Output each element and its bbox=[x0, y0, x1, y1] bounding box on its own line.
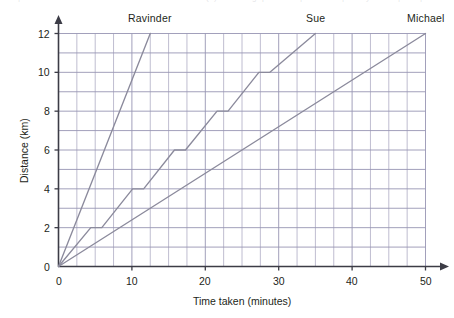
y-tick-label: 12 bbox=[38, 28, 50, 40]
x-tick-label: 40 bbox=[346, 275, 358, 287]
series-label-michael: Michael bbox=[407, 12, 445, 24]
y-tick-label: 10 bbox=[38, 66, 50, 78]
distance-time-graph bbox=[0, 0, 454, 318]
y-tick-label: 0 bbox=[44, 261, 50, 273]
y-axis-title: Distance (km) bbox=[18, 118, 30, 183]
y-tick-label: 4 bbox=[44, 183, 50, 195]
y-tick-label: 2 bbox=[44, 222, 50, 234]
y-tick-label: 6 bbox=[44, 144, 50, 156]
x-axis-title: Time taken (minutes) bbox=[193, 295, 291, 307]
y-tick-label: 8 bbox=[44, 105, 50, 117]
x-tick-label: 50 bbox=[420, 275, 432, 287]
series-label-sue: Sue bbox=[306, 12, 325, 24]
x-tick-label: 30 bbox=[273, 275, 285, 287]
x-tick-label: 0 bbox=[56, 275, 62, 287]
series-label-ravinder: Ravinder bbox=[128, 12, 172, 24]
x-tick-label: 10 bbox=[126, 275, 138, 287]
chart-page: | 9 ( ) g p | | y | | Ravinder Sue Micha… bbox=[0, 0, 454, 318]
x-tick-label: 20 bbox=[199, 275, 211, 287]
